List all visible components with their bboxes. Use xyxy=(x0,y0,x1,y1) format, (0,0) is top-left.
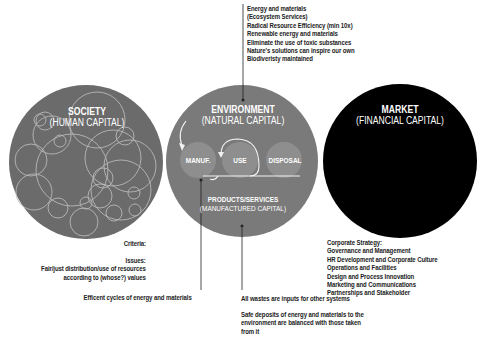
top-note: Biodiveristy maintained xyxy=(247,55,355,63)
society-title-main: SOCIETY xyxy=(31,106,143,117)
top-note: Eliminate the use of toxic substances xyxy=(247,39,355,47)
stage-use-label: USE xyxy=(221,156,259,165)
manuf-note: Efficent cycles of energy and materials xyxy=(84,294,192,302)
products-services-title: PRODUCTS/SERVICES (MANUFACTURED CAPITAL) xyxy=(187,195,299,213)
environment-top-notes: Energy and materials (Ecosystem Services… xyxy=(247,5,355,64)
top-note: Nature's solutions can inspire our own xyxy=(247,47,355,55)
strategy-line: Partnerships and Stakeholder xyxy=(327,289,438,297)
top-note: Energy and materials xyxy=(247,5,355,13)
strategy-line: Operations and Facilities xyxy=(327,264,438,272)
society-criteria-label: Criteria: xyxy=(124,240,146,248)
strategy-line: Design and Process Innovation xyxy=(327,273,438,281)
market-strategy: Corporate Strategy: Governance and Manag… xyxy=(327,239,438,298)
strategy-line: Marketing and Communications xyxy=(327,281,438,289)
top-note: Radical Resource Efficiency (min 10x) xyxy=(247,22,355,30)
market-title-main: MARKET xyxy=(344,104,456,115)
products-title-main: PRODUCTS/SERVICES xyxy=(187,195,299,204)
strategy-line: Corporate Strategy: xyxy=(327,239,438,247)
strategy-line: Governance and Management xyxy=(327,247,438,255)
top-note: (Ecosystem Services) xyxy=(247,13,355,21)
connector-dot xyxy=(241,225,244,228)
market-title: MARKET (FINANCIAL CAPITAL) xyxy=(344,104,456,126)
stage-disposal-label: DISPOSAL xyxy=(262,156,308,165)
society-issues: Issues: Fair/just distribution/use of re… xyxy=(41,257,146,282)
environment-title-sub: (NATURAL CAPITAL) xyxy=(187,115,299,126)
society-title: SOCIETY (HUMAN CAPITAL) xyxy=(31,106,143,128)
products-title-sub: (MANUFACTURED CAPITAL) xyxy=(187,204,299,213)
issues-line: Fair/just distribution/use of resources xyxy=(41,265,146,273)
issues-line: according to (whose?) values xyxy=(41,274,146,282)
environment-title-main: ENVIRONMENT xyxy=(187,104,299,115)
deposit-line: Safe deposits of energy and materials to… xyxy=(241,311,364,319)
issues-label: Issues: xyxy=(41,257,146,265)
deposit-note: Safe deposits of energy and materials to… xyxy=(241,311,364,336)
strategy-line: HR Development and Corporate Culture xyxy=(327,256,438,264)
deposit-line: from it xyxy=(241,328,364,336)
society-title-sub: (HUMAN CAPITAL) xyxy=(31,117,143,128)
stage-manuf-label: MANUF. xyxy=(179,156,217,165)
connector-dot xyxy=(200,179,203,182)
deposit-line: environment are balanced with those take… xyxy=(241,319,364,327)
top-note: Renewable energy and materials xyxy=(247,30,355,38)
connector-dot xyxy=(242,99,245,102)
market-title-sub: (FINANCIAL CAPITAL) xyxy=(344,115,456,126)
environment-title: ENVIRONMENT (NATURAL CAPITAL) xyxy=(187,104,299,126)
